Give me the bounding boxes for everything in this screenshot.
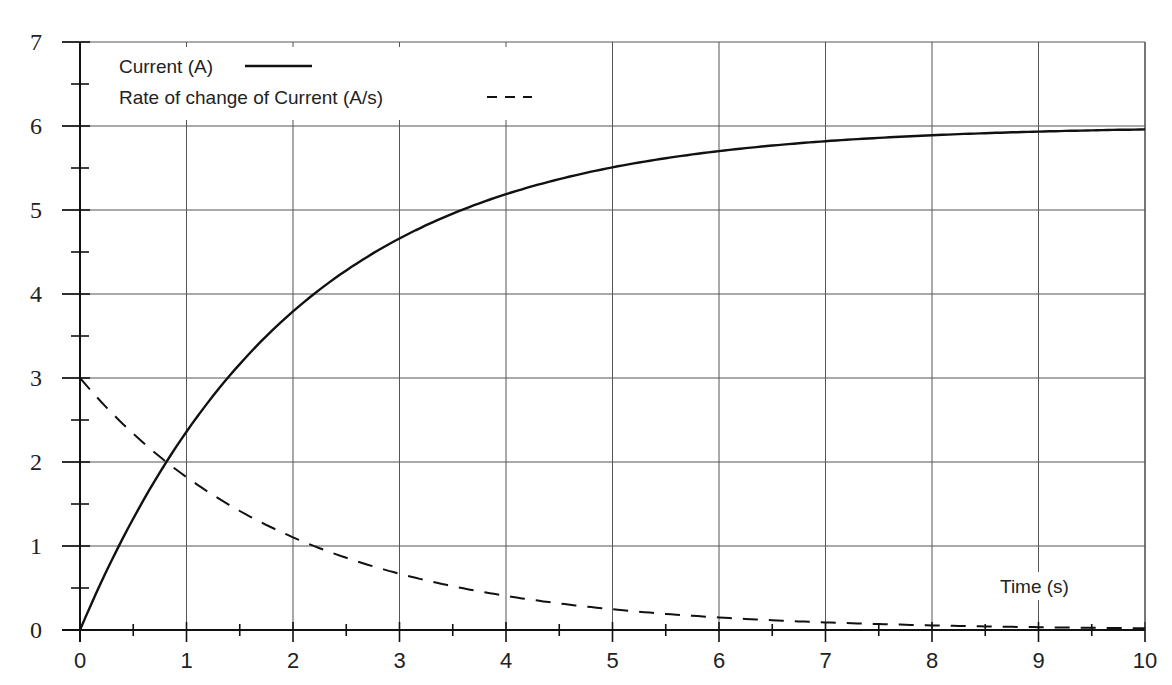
- grid-lines: [62, 42, 1145, 630]
- x-tick-label: 6: [713, 648, 725, 673]
- x-tick-label: 0: [74, 648, 86, 673]
- x-tick-label: 1: [180, 648, 192, 673]
- y-tick-label: 6: [30, 113, 42, 139]
- y-tick-label: 3: [30, 365, 42, 391]
- y-tick-label: 4: [30, 281, 42, 307]
- y-tick-label: 2: [30, 449, 42, 475]
- x-axis-label: Time (s): [1000, 576, 1069, 597]
- x-tick-label: 7: [819, 648, 831, 673]
- x-tick-label: 5: [606, 648, 618, 673]
- x-tick-label: 8: [926, 648, 938, 673]
- x-tick-label: 10: [1133, 648, 1157, 673]
- x-tick-label: 2: [287, 648, 299, 673]
- x-tick-label: 3: [393, 648, 405, 673]
- y-tick-label: 7: [30, 29, 42, 55]
- legend-label-current: Current (A): [119, 56, 213, 77]
- y-tick-label: 5: [30, 197, 42, 223]
- x-tick-label: 4: [500, 648, 512, 673]
- chart: 01234567012345678910 Current (A) Rate of…: [0, 0, 1172, 685]
- y-tick-label: 0: [30, 617, 42, 643]
- y-tick-label: 1: [30, 533, 42, 559]
- axes: [62, 42, 1145, 642]
- x-tick-label: 9: [1032, 648, 1044, 673]
- legend-label-rate: Rate of change of Current (A/s): [119, 87, 383, 108]
